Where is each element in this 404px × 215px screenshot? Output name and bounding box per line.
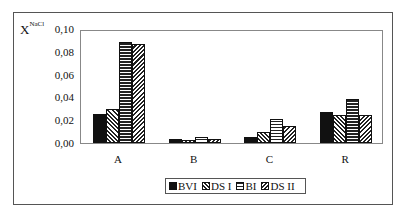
bar-B-DS-I <box>182 140 195 143</box>
bar-B-BI <box>195 137 208 143</box>
legend-item: DS II <box>261 180 294 192</box>
bar-R-DS-I <box>333 115 346 143</box>
bar-B-BVI <box>169 139 182 143</box>
legend-swatch-icon <box>261 182 269 190</box>
legend: BVIDS IBIDS II <box>165 178 306 194</box>
y-tick-label: 0,00 <box>44 137 74 149</box>
plot-area <box>80 30 383 144</box>
y-axis-label: XNaCl <box>20 22 44 38</box>
bar-B-DS-II <box>208 139 221 143</box>
bar-A-DS-II <box>132 44 145 143</box>
bar-R-BI <box>346 99 359 143</box>
y-tick-label: 0,02 <box>44 114 74 126</box>
legend-swatch-icon <box>236 182 244 190</box>
legend-item: BI <box>236 180 256 192</box>
legend-label: DS II <box>270 180 294 192</box>
bar-C-DS-II <box>283 126 296 143</box>
x-tick-label: C <box>259 153 279 165</box>
legend-label: BVI <box>178 180 197 192</box>
legend-item: BVI <box>169 180 197 192</box>
x-tick-label: B <box>184 153 204 165</box>
y-tick-label: 0,04 <box>44 91 74 103</box>
legend-swatch-icon <box>169 182 177 190</box>
legend-item: DS I <box>202 180 231 192</box>
x-tick-label: R <box>335 153 355 165</box>
bar-A-DS-I <box>106 109 119 143</box>
y-tick-label: 0,06 <box>44 69 74 81</box>
y-tick-label: 0,10 <box>44 23 74 35</box>
bar-A-BVI <box>93 114 106 143</box>
bar-R-BVI <box>320 112 333 143</box>
bar-C-DS-I <box>257 132 270 143</box>
bar-C-BVI <box>244 137 257 143</box>
bar-R-DS-II <box>359 115 372 143</box>
bar-A-BI <box>119 42 132 143</box>
y-tick-label: 0,08 <box>44 46 74 58</box>
legend-swatch-icon <box>202 182 210 190</box>
bar-C-BI <box>270 119 283 143</box>
legend-label: BI <box>245 180 256 192</box>
legend-label: DS I <box>211 180 231 192</box>
x-tick-label: A <box>108 153 128 165</box>
